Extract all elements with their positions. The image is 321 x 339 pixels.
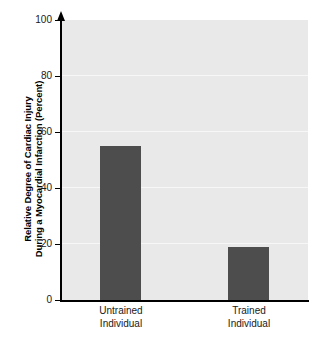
y-tick-80 xyxy=(55,76,60,77)
x-axis-line xyxy=(60,300,309,302)
bar-trained-individual[interactable] xyxy=(228,247,269,300)
x-axis-label-untrained-line-1: Untrained xyxy=(66,305,176,318)
bar-untrained-individual[interactable] xyxy=(100,146,141,300)
y-axis-line xyxy=(60,20,62,301)
y-tick-label-80: 80 xyxy=(12,71,52,81)
y-axis-title: Relative Degree of Cardiac Injury During… xyxy=(16,44,50,294)
y-tick-40 xyxy=(55,188,60,189)
y-axis-title-line-1: Relative Degree of Cardiac Injury xyxy=(22,96,34,242)
gridline-20 xyxy=(61,243,308,244)
y-tick-label-0: 0 xyxy=(12,295,52,305)
y-tick-label-40: 40 xyxy=(12,183,52,193)
gridline-40 xyxy=(61,187,308,188)
x-axis-label-trained-individual: Trained Individual xyxy=(194,305,304,330)
x-axis-label-untrained-individual: Untrained Individual xyxy=(66,305,176,330)
y-axis-title-line-2: During a Myocardial Infarction (Percent) xyxy=(33,81,45,258)
y-tick-label-60: 60 xyxy=(12,127,52,137)
x-axis-label-untrained-line-2: Individual xyxy=(66,318,176,331)
y-tick-20 xyxy=(55,244,60,245)
y-tick-0 xyxy=(55,300,60,301)
gridline-60 xyxy=(61,131,308,132)
gridline-80 xyxy=(61,75,308,76)
plot-area xyxy=(61,20,308,300)
y-tick-100 xyxy=(55,20,60,21)
y-tick-label-20: 20 xyxy=(12,239,52,249)
y-tick-label-100: 100 xyxy=(12,15,52,25)
y-tick-60 xyxy=(55,132,60,133)
x-axis-label-trained-line-1: Trained xyxy=(194,305,304,318)
bar-chart-figure: Relative Degree of Cardiac Injury During… xyxy=(0,0,321,339)
x-axis-label-trained-line-2: Individual xyxy=(194,318,304,331)
